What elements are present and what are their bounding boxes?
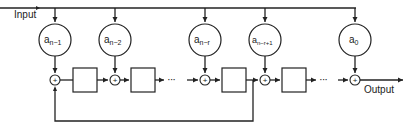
- input-bus: [0, 6, 356, 10]
- block-diagram: Input an−1 an−2 an−r an−r+1 a0: [0, 0, 409, 129]
- input-arrow-icon: [36, 6, 40, 10]
- delay-block-1: [73, 68, 97, 92]
- coefficient-a-n-r: an−r: [189, 24, 221, 56]
- delay-block-3: [222, 68, 246, 92]
- coefficient-a-n-2: an−2: [99, 24, 131, 56]
- summing-junction-3: +: [200, 75, 210, 85]
- summing-junction-2: +: [110, 75, 120, 85]
- svg-text:+: +: [113, 76, 118, 85]
- coefficient-outputs: [55, 56, 355, 73]
- output-label: Output: [364, 84, 394, 95]
- summing-junction-5: +: [350, 75, 360, 85]
- ellipsis-1: ···: [167, 73, 175, 85]
- delay-block-2: [131, 68, 155, 92]
- svg-text:+: +: [263, 76, 268, 85]
- svg-text:+: +: [203, 76, 208, 85]
- input-taps: [55, 8, 355, 22]
- coefficient-a-0: a0: [339, 24, 371, 56]
- svg-text:+: +: [53, 76, 58, 85]
- delay-block-4: [282, 68, 306, 92]
- summing-junction-1: +: [50, 75, 60, 85]
- input-label: Input: [14, 9, 36, 20]
- ellipsis-2: ···: [319, 73, 327, 85]
- svg-text:+: +: [353, 76, 358, 85]
- summing-junction-4: +: [260, 75, 270, 85]
- coefficient-a-n-1: an−1: [39, 24, 71, 56]
- coefficient-a-n-r-plus-1: an−r+1: [249, 24, 281, 56]
